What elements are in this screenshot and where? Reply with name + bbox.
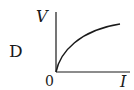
v-i-curve [56,24,120,72]
graph [0,0,134,90]
